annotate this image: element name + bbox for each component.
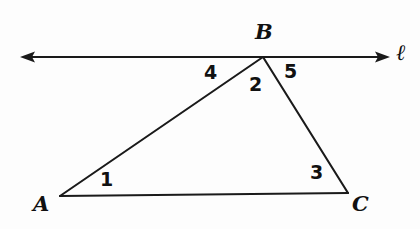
vertex-label-A: A — [33, 193, 49, 214]
geometry-figure: B A C ℓ 1 2 3 4 5 — [0, 0, 420, 229]
vertex-label-B: B — [255, 21, 273, 42]
side-AB — [60, 57, 263, 196]
angle-label-2: 2 — [249, 75, 262, 94]
angle-label-5: 5 — [284, 62, 297, 81]
angle-label-1: 1 — [100, 170, 113, 189]
vertex-label-C: C — [352, 193, 369, 214]
angle-label-3: 3 — [310, 163, 323, 182]
angle-label-4: 4 — [204, 63, 217, 82]
side-AC — [60, 193, 348, 196]
side-BC — [263, 57, 348, 193]
line-label-l: ℓ — [396, 42, 405, 64]
